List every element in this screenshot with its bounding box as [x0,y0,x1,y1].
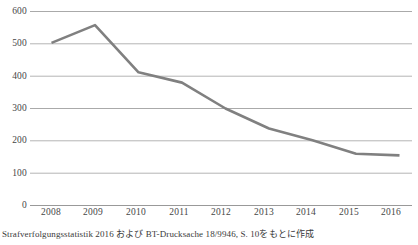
x-tick-label: 2010 [114,207,158,218]
x-tick-label: 2009 [71,207,115,218]
x-tick-label: 2008 [29,207,73,218]
chart-source-caption: Strafverfolgungsstatistik 2016 および BT-Dr… [2,228,416,240]
gridlines [30,12,412,174]
x-tick-label: 2012 [199,207,243,218]
plot-area: 600 500 400 300 200 100 0 2008 2009 [0,0,418,222]
plot-svg [0,0,418,222]
x-tick-label: 2016 [369,207,413,218]
x-axis-tick-labels: 2008 2009 2010 2011 2012 2013 2014 2015 … [30,207,412,222]
data-series-line [52,25,400,155]
x-tick-label: 2013 [242,207,286,218]
line-chart-figure: 600 500 400 300 200 100 0 2008 2009 [0,0,418,245]
x-tick-label: 2014 [284,207,328,218]
x-tick-label: 2015 [327,207,371,218]
x-tick-label: 2011 [157,207,201,218]
